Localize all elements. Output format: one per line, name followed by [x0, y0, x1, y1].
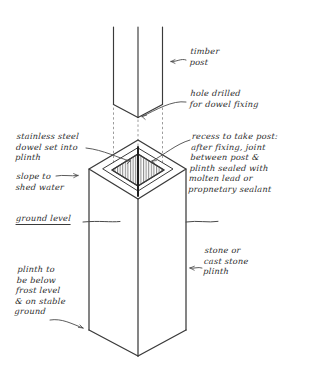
annotation-stainless-steel-dowel: stainless steel dowel set into plinth [15, 131, 80, 163]
annotation-plinth-below-frost-level: plinth to be below frost level & on stab… [14, 264, 68, 317]
sketch-sheet: timber post hole drilled for dowel fixin… [0, 0, 324, 380]
annotation-hole-drilled: hole drilled for dowel fixing [189, 88, 260, 109]
annotation-ground-level: ground level [16, 213, 72, 224]
annotation-timber-post: timber post [189, 46, 220, 67]
ground-level-line [83, 221, 218, 222]
annotation-recess-to-take-post: recess to take post: after fixing, joint… [188, 131, 278, 195]
timber-post-graphic [114, 27, 163, 118]
annotation-slope-to-shed-water: slope to shed water [15, 171, 65, 192]
leader-lines [50, 59, 202, 328]
ground-level-label: ground level [16, 213, 72, 225]
annotation-stone-or-cast-stone-plinth: stone or cast stone plinth [203, 245, 250, 277]
